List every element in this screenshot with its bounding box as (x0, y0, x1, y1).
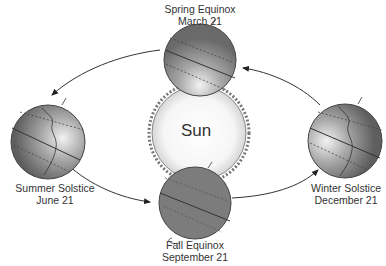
orbit-arrow-winter-to-spring (243, 68, 320, 105)
label-winter-solstice: Winter Solstice December 21 (296, 182, 386, 206)
orbit-arrow-spring-to-summer (52, 50, 160, 95)
summer-date: June 21 (5, 194, 105, 206)
earth-winter-icon (308, 97, 382, 178)
fall-date: September 21 (145, 251, 245, 263)
spring-date: March 21 (150, 15, 250, 27)
sun-label: Sun (181, 121, 211, 141)
fall-title: Fall Equinox (145, 239, 245, 251)
earth-summer-icon (11, 98, 85, 179)
earth-spring-icon (164, 19, 236, 96)
label-summer-solstice: Summer Solstice June 21 (5, 182, 105, 206)
spring-title: Spring Equinox (150, 3, 250, 15)
summer-title: Summer Solstice (5, 182, 105, 194)
winter-date: December 21 (296, 194, 386, 206)
label-fall-equinox: Fall Equinox September 21 (145, 239, 245, 263)
winter-title: Winter Solstice (296, 182, 386, 194)
label-spring-equinox: Spring Equinox March 21 (150, 3, 250, 27)
